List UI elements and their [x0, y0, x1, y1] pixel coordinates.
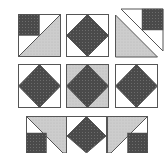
quilt-block-5 [66, 64, 109, 108]
quilt-block-8 [66, 116, 107, 153]
quilt-block-2 [66, 14, 109, 57]
quilt-block-6 [115, 64, 158, 108]
quilt-block-3 [115, 8, 167, 58]
quilt-block-7 [26, 116, 67, 153]
quilt-block-9 [107, 116, 148, 153]
quilt-block-4 [18, 64, 61, 108]
quilt-block-1 [18, 14, 61, 57]
